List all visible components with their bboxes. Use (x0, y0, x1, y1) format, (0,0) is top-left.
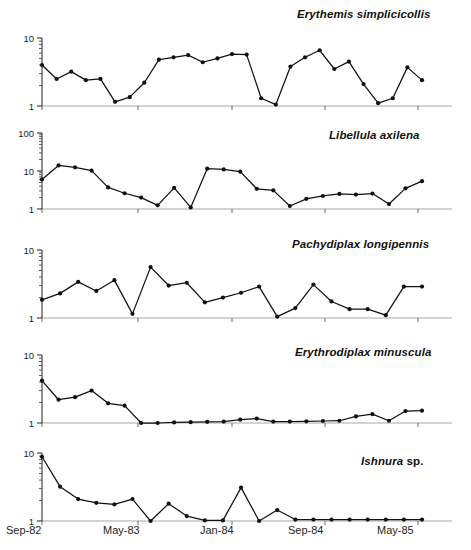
species-genus-epithet: Ishnura (361, 455, 403, 467)
data-point-marker (58, 291, 62, 295)
data-point-marker (73, 395, 77, 399)
y-axis-tick-label: 10 (23, 245, 34, 256)
data-point-marker (167, 283, 171, 287)
data-point-marker (366, 307, 370, 311)
data-point-marker (205, 167, 209, 171)
data-point-marker (185, 281, 189, 285)
species-label: Erythemis simplicicollis (297, 8, 430, 20)
data-point-marker (106, 401, 110, 405)
data-point-marker (387, 202, 391, 206)
data-point-marker (420, 179, 424, 183)
data-point-marker (40, 379, 44, 383)
data-series-line (42, 381, 422, 423)
y-axis-tick-label: 1 (29, 204, 34, 215)
data-point-marker (347, 59, 351, 63)
data-point-marker (271, 188, 275, 192)
data-point-marker (293, 306, 297, 310)
chart-panel: 110 (0, 345, 471, 433)
data-point-marker (40, 455, 44, 459)
data-point-marker (370, 412, 374, 416)
data-point-marker (84, 78, 88, 82)
data-point-marker (354, 192, 358, 196)
data-point-marker (384, 313, 388, 317)
x-axis-tick-label: May-85 (377, 524, 414, 536)
data-point-marker (76, 497, 80, 501)
data-point-marker (123, 191, 127, 195)
data-point-marker (391, 96, 395, 100)
data-point-marker (403, 409, 407, 413)
data-point-marker (337, 419, 341, 423)
data-point-marker (304, 197, 308, 201)
data-point-marker (94, 501, 98, 505)
data-point-marker (238, 418, 242, 422)
data-point-marker (201, 60, 205, 64)
data-point-marker (40, 177, 44, 181)
y-axis-tick-label: 1 (29, 418, 34, 429)
data-point-marker (245, 53, 249, 57)
data-point-marker (332, 67, 336, 71)
data-point-marker (148, 265, 152, 269)
data-point-marker (257, 284, 261, 288)
series-plot: 110 (0, 240, 471, 328)
series-plot: 110 (0, 345, 471, 433)
species-label: Libellula axilena (329, 129, 420, 141)
data-point-marker (402, 517, 406, 521)
data-point-marker (123, 404, 127, 408)
data-point-marker (139, 195, 143, 199)
chart-panel: 110 (0, 28, 471, 116)
data-point-marker (329, 299, 333, 303)
data-point-marker (156, 203, 160, 207)
data-point-marker (203, 518, 207, 522)
data-point-marker (89, 169, 93, 173)
y-axis-tick-label: 1 (29, 313, 34, 324)
y-axis-tick-label: 1 (29, 101, 34, 112)
data-point-marker (288, 204, 292, 208)
data-point-marker (40, 63, 44, 67)
figure-panel-stack: 110110100110110110Erythemis simplicicoll… (0, 0, 471, 550)
species-label: Pachydiplax longipennis (292, 238, 429, 250)
data-point-marker (215, 56, 219, 60)
data-point-marker (318, 48, 322, 52)
species-genus-epithet: Erythemis simplicicollis (297, 8, 430, 20)
data-point-marker (361, 82, 365, 86)
data-point-marker (329, 517, 333, 521)
data-point-marker (311, 517, 315, 521)
data-point-marker (73, 165, 77, 169)
data-point-marker (172, 420, 176, 424)
data-point-marker (348, 307, 352, 311)
data-point-marker (130, 497, 134, 501)
data-point-marker (405, 65, 409, 69)
data-point-marker (288, 64, 292, 68)
data-point-marker (366, 517, 370, 521)
chart-panel: 110 (0, 240, 471, 328)
data-point-marker (230, 52, 234, 56)
data-point-marker (239, 485, 243, 489)
data-point-marker (55, 77, 59, 81)
x-axis-tick-label: Sep-84 (288, 524, 323, 536)
data-point-marker (112, 278, 116, 282)
y-axis-tick-label: 10 (23, 166, 34, 177)
data-point-marker (189, 205, 193, 209)
x-axis-tick-label: Sep-82 (6, 524, 41, 536)
data-point-marker (257, 519, 261, 523)
data-point-marker (293, 517, 297, 521)
x-axis-label-row: Sep-82May-83Jan-84Sep-84May-85 (0, 524, 471, 546)
data-point-marker (56, 398, 60, 402)
data-point-marker (274, 102, 278, 106)
data-point-marker (94, 289, 98, 293)
data-point-marker (205, 420, 209, 424)
data-point-marker (185, 514, 189, 518)
data-series-line (42, 165, 422, 207)
data-point-marker (321, 194, 325, 198)
data-point-marker (420, 78, 424, 82)
y-axis-tick-label: 10 (23, 33, 34, 44)
data-point-marker (222, 167, 226, 171)
data-point-marker (275, 314, 279, 318)
y-axis-tick-label: 10 (23, 350, 34, 361)
data-point-marker (56, 163, 60, 167)
data-point-marker (112, 502, 116, 506)
data-point-marker (128, 95, 132, 99)
data-point-marker (255, 187, 259, 191)
data-point-marker (167, 502, 171, 506)
data-point-marker (89, 388, 93, 392)
